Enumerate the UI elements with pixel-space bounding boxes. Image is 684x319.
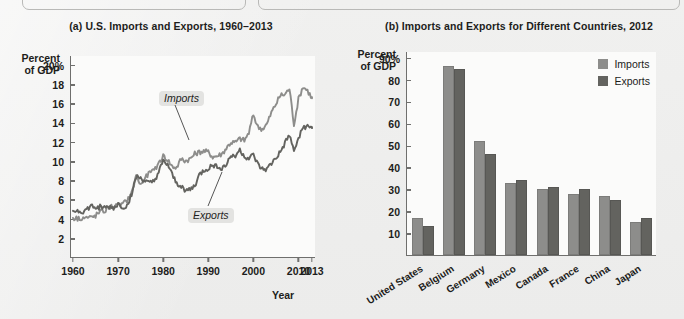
bar-imports bbox=[537, 189, 548, 255]
line-series-imports bbox=[73, 88, 312, 221]
panel-a-y-tick: 20% bbox=[43, 60, 71, 72]
bar-imports bbox=[505, 183, 516, 255]
bar-imports bbox=[599, 196, 610, 255]
panel-a-y-tick: 4 bbox=[58, 214, 71, 226]
bar-exports bbox=[548, 187, 559, 255]
exports-series-label: Exports bbox=[188, 208, 234, 223]
figure-panel-b: (b) Imports and Exports for Different Co… bbox=[342, 0, 684, 319]
panel-b-y-tick: 60 bbox=[388, 118, 407, 130]
bar-exports bbox=[454, 69, 465, 255]
bar-imports bbox=[412, 218, 423, 255]
panel-a-x-tick: 2000 bbox=[242, 257, 265, 277]
panel-a-x-tick: 1970 bbox=[106, 257, 129, 277]
bar-imports bbox=[474, 141, 485, 255]
panel-b-legend: Imports Exports bbox=[598, 58, 650, 92]
bar-imports bbox=[630, 222, 641, 255]
imports-series-label: Imports bbox=[159, 91, 204, 106]
panel-b-title: (b) Imports and Exports for Different Co… bbox=[342, 20, 684, 32]
panel-a-y-tick: 8 bbox=[58, 175, 71, 187]
legend-swatch-imports-icon bbox=[598, 59, 608, 69]
line-series-exports bbox=[73, 125, 312, 214]
category-label-text: United States bbox=[364, 263, 424, 306]
bar-exports bbox=[485, 154, 496, 255]
bar-imports bbox=[568, 194, 579, 255]
figure-panel-a: (a) U.S. Imports and Exports, 1960–2013 … bbox=[0, 0, 342, 319]
panel-a-y-tick: 2 bbox=[58, 233, 71, 245]
panel-b-y-tick: 10 bbox=[388, 228, 407, 240]
panel-a-x-tick: 1980 bbox=[152, 257, 175, 277]
bar-group: France bbox=[563, 189, 594, 255]
panel-b-y-tick: 30 bbox=[388, 184, 407, 196]
legend-swatch-exports-icon bbox=[598, 76, 608, 86]
panel-a-plot-area: 20%18161412108642 1960197019801990200020… bbox=[70, 56, 315, 258]
bar-group: United States bbox=[407, 218, 438, 255]
legend-item-exports: Exports bbox=[598, 75, 650, 87]
panel-a-y-tick: 10 bbox=[52, 156, 71, 168]
panel-b-y-tick: 80 bbox=[388, 75, 407, 87]
panel-b-y-tick: 40 bbox=[388, 162, 407, 174]
bar-group: Mexico bbox=[501, 180, 532, 255]
panel-a-y-tick: 12 bbox=[52, 137, 71, 149]
bar-exports bbox=[423, 226, 434, 255]
panel-b-y-tick: 20 bbox=[388, 206, 407, 218]
panel-a-x-tick: 1990 bbox=[197, 257, 220, 277]
bar-group: Japan bbox=[626, 218, 657, 255]
panel-b-y-tick: 50 bbox=[388, 140, 407, 152]
panel-a-x-tick: 1960 bbox=[61, 257, 84, 277]
bar-exports bbox=[641, 218, 652, 255]
panel-a-title: (a) U.S. Imports and Exports, 1960–2013 bbox=[0, 20, 342, 32]
panel-a-y-tick: 18 bbox=[52, 79, 71, 91]
panel-b-y-tick: 70 bbox=[388, 96, 407, 108]
panel-a-x-tick: 2013 bbox=[300, 257, 323, 277]
legend-label-exports: Exports bbox=[614, 75, 650, 87]
legend-item-imports: Imports bbox=[598, 58, 650, 70]
panel-b-plot-area: 90%8070605040302010 United StatesBelgium… bbox=[406, 52, 656, 256]
panel-a-x-axis-title: Year bbox=[272, 289, 294, 301]
bar-imports bbox=[443, 66, 454, 255]
bar-exports bbox=[610, 200, 621, 255]
bar-group: Canada bbox=[532, 187, 563, 255]
panel-a-y-tick: 14 bbox=[52, 117, 71, 129]
legend-label-imports: Imports bbox=[614, 58, 649, 70]
bar-group: Germany bbox=[470, 141, 501, 255]
panel-a-line-series bbox=[71, 56, 316, 258]
bar-exports bbox=[579, 189, 590, 255]
bar-group: Belgium bbox=[438, 66, 469, 255]
bar-group: China bbox=[595, 196, 626, 255]
bar-exports bbox=[516, 180, 527, 255]
panel-a-y-tick: 6 bbox=[58, 194, 71, 206]
panel-b-y-tick: 90% bbox=[379, 53, 407, 65]
panel-a-y-tick: 16 bbox=[52, 98, 71, 110]
